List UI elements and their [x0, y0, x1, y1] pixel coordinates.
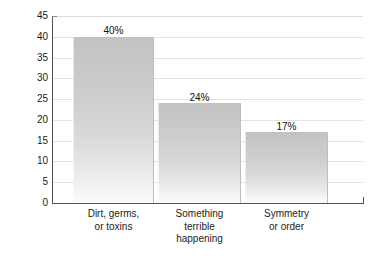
plot-area: [52, 16, 363, 203]
bar-value-label-1: 40%: [73, 25, 154, 36]
y-tick-label-25: 25: [4, 94, 48, 104]
bar-chart: 45 40 35 30 25 20 15 10 5 0 40% 24% 17% …: [0, 0, 376, 256]
y-tick-label-40: 40: [4, 32, 48, 42]
y-tick-label-30: 30: [4, 73, 48, 83]
y-axis-top-tick: [52, 16, 57, 17]
y-tick-label-0: 0: [4, 198, 48, 208]
y-tick-label-45: 45: [4, 11, 48, 21]
bar-value-label-3: 17%: [245, 121, 328, 132]
bar-dirt-germs-or-toxins: [73, 37, 154, 203]
y-axis-tick-labels: 45 40 35 30 25 20 15 10 5 0: [0, 0, 48, 256]
y-tick-label-10: 10: [4, 156, 48, 166]
y-axis-line: [52, 16, 53, 204]
gridline-45: [52, 16, 363, 17]
bar-symmetry-or-order: [245, 132, 328, 203]
x-axis-end-tick: [363, 197, 364, 204]
x-category-label-something-terrible-happening: Something terrible happening: [149, 208, 250, 246]
y-tick-label-15: 15: [4, 136, 48, 146]
y-tick-label-20: 20: [4, 115, 48, 125]
x-category-label-symmetry-or-order: Symmetry or order: [236, 208, 337, 233]
x-axis-line: [52, 203, 364, 204]
bar-something-terrible-happening: [158, 103, 241, 203]
bar-value-label-2: 24%: [158, 92, 241, 103]
y-tick-label-35: 35: [4, 53, 48, 63]
y-tick-label-5: 5: [4, 177, 48, 187]
